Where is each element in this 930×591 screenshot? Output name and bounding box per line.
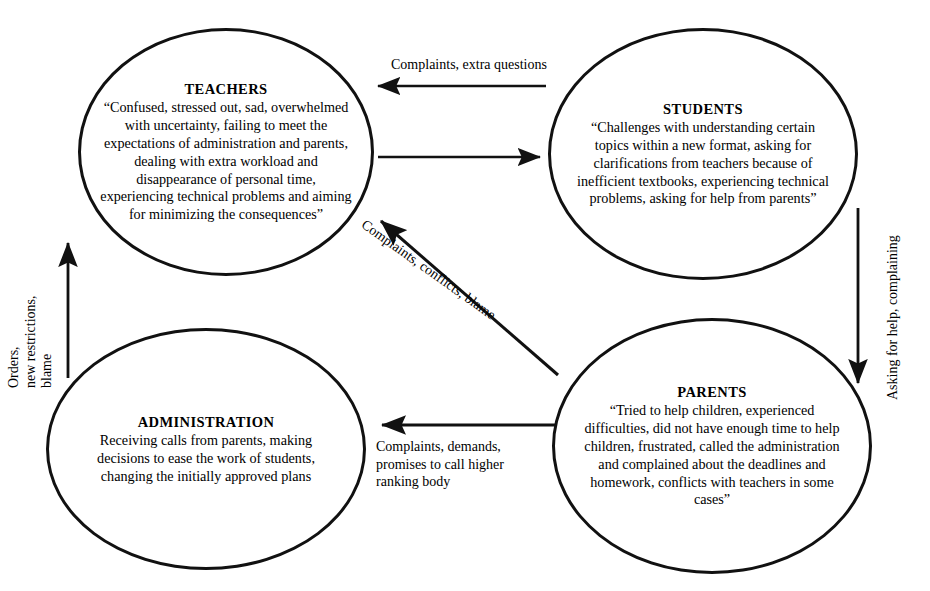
node-administration-title: ADMINISTRATION xyxy=(93,413,319,431)
edge-label-parents-to-teachers: Complaints, conflicts, blame xyxy=(358,216,555,364)
node-parents-body: “Tried to help children, experienced dif… xyxy=(580,402,844,509)
edge-label-students-to-teachers: Complaints, extra questions xyxy=(364,56,574,74)
node-parents-content: PARENTS “Tried to help children, experie… xyxy=(580,383,844,510)
node-administration[interactable]: ADMINISTRATION Receiving calls from pare… xyxy=(46,328,366,570)
node-teachers[interactable]: TEACHERS “Confused, stressed out, sad, o… xyxy=(78,28,374,276)
node-parents[interactable]: PARENTS “Tried to help children, experie… xyxy=(552,318,872,574)
node-students-title: STUDENTS xyxy=(575,100,830,118)
node-teachers-title: TEACHERS xyxy=(98,80,353,98)
node-students[interactable]: STUDENTS “Challenges with understanding … xyxy=(548,28,858,280)
node-administration-content: ADMINISTRATION Receiving calls from pare… xyxy=(93,413,319,486)
node-teachers-content: TEACHERS “Confused, stressed out, sad, o… xyxy=(98,80,353,225)
node-students-body: “Challenges with understanding certain t… xyxy=(575,119,830,208)
edge-label-students-to-parents: Asking for help, complaining xyxy=(884,180,902,400)
node-students-content: STUDENTS “Challenges with understanding … xyxy=(575,100,830,209)
edge-label-administration-to-teachers: Orders, new restrictions, blame xyxy=(6,208,56,388)
node-administration-body: Receiving calls from parents, making dec… xyxy=(93,432,319,486)
edge-label-parents-to-administration: Complaints, demands, promises to call hi… xyxy=(376,438,526,491)
node-parents-title: PARENTS xyxy=(580,383,844,401)
diagram-canvas: TEACHERS “Confused, stressed out, sad, o… xyxy=(0,0,930,591)
node-teachers-body: “Confused, stressed out, sad, overwhelme… xyxy=(98,99,353,224)
